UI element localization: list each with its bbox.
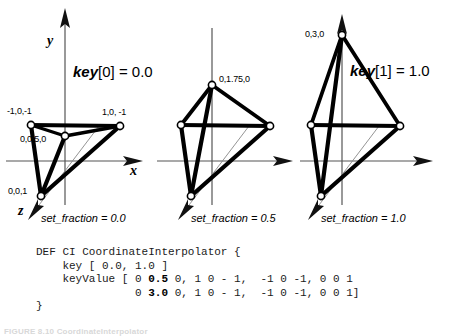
edge-v1-v2-right bbox=[311, 125, 400, 126]
vertex-node-v2-right bbox=[396, 122, 403, 129]
panel-right-graphics bbox=[300, 14, 433, 220]
axis-label-y-left: y bbox=[47, 33, 53, 49]
vertex-node-v1-right bbox=[307, 121, 314, 128]
code-line-2: key [ 0.0, 1.0 ] bbox=[36, 260, 168, 272]
vertex-node-v1-middle bbox=[177, 121, 184, 128]
figure-canvas: y x z key[0] = 0.0 -1,0,-1 1,0, -1 0,0.5… bbox=[0, 0, 450, 336]
edge-v2-apex-right bbox=[342, 35, 400, 126]
key-label-right-name: key bbox=[350, 62, 375, 79]
axis-label-x-left: x bbox=[130, 163, 137, 179]
code-line-3-bold: 0.5 bbox=[148, 273, 168, 285]
vertex-label-v1-left: -1,0,-1 bbox=[7, 106, 32, 116]
key-label-left-index: [0] = 0.0 bbox=[98, 63, 153, 80]
edge-v2-apex-middle bbox=[212, 85, 270, 126]
vertex-node-v1-left bbox=[27, 121, 34, 128]
code-line-4-bold: 3.0 bbox=[148, 287, 168, 299]
code-line-3-post: 0, 1 0 - 1, -1 0 -1, 0 0 1 bbox=[168, 273, 353, 285]
vertex-label-apex-left: 0,0.5,0 bbox=[20, 134, 46, 144]
axis-label-z-left: z bbox=[18, 203, 23, 219]
vertex-node-v2-middle bbox=[266, 122, 273, 129]
key-label-left-name: key bbox=[73, 63, 98, 80]
vertex-node-v2-left bbox=[116, 122, 123, 129]
code-line-4-post: 0, 1 0 - 1, -1 0 -1, 0 0 1] bbox=[168, 287, 359, 299]
edge-v1-v2-left bbox=[31, 125, 120, 126]
vertex-label-v3-left: 0,0,1 bbox=[8, 186, 27, 196]
vertex-label-v2-left: 1,0, -1 bbox=[102, 107, 126, 117]
code-line-4-pre: 0 bbox=[36, 287, 148, 299]
vertex-node-apex-right bbox=[338, 31, 345, 38]
set-fraction-label-middle: set_fraction = 0.5 bbox=[191, 212, 276, 224]
vertex-node-apex-middle bbox=[208, 81, 215, 88]
vertex-label-apex-middle: 0,1.75,0 bbox=[219, 74, 250, 84]
edge-v3-apex-right bbox=[321, 35, 342, 196]
key-label-left: key[0] = 0.0 bbox=[73, 63, 153, 80]
vertex-label-apex-right: 0,3,0 bbox=[305, 29, 324, 39]
code-block: DEF CI CoordinateInterpolator { key [ 0.… bbox=[36, 246, 359, 314]
vertex-node-v3-middle bbox=[187, 192, 194, 199]
set-fraction-label-right: set_fraction = 1.0 bbox=[321, 212, 406, 224]
panel-middle-graphics bbox=[157, 28, 293, 220]
code-line-5: } bbox=[36, 300, 43, 312]
code-line-3-pre: keyValue [ 0 bbox=[36, 273, 148, 285]
figure-caption: FIGURE 8.10 CoordinateInterpolator bbox=[4, 327, 148, 336]
edge-v1-v2-middle bbox=[181, 125, 270, 126]
set-fraction-label-left: set_fraction = 0.0 bbox=[41, 212, 126, 224]
vertex-node-v3-left bbox=[37, 192, 44, 199]
vertex-node-apex-left bbox=[61, 132, 68, 139]
key-label-right: key[1] = 1.0 bbox=[350, 62, 430, 79]
key-label-right-index: [1] = 1.0 bbox=[375, 62, 430, 79]
vertex-node-v3-right bbox=[317, 192, 324, 199]
code-line-1: DEF CI CoordinateInterpolator { bbox=[36, 246, 241, 258]
